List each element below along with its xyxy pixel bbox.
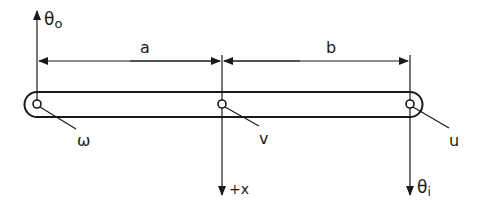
pivot-w-icon	[33, 100, 41, 108]
leader-u	[413, 107, 449, 128]
theta-o-label: θo	[44, 9, 62, 31]
theta-i-label: θi	[417, 177, 431, 199]
v-label: v	[259, 129, 268, 148]
plus-x-label: +x	[229, 181, 249, 197]
pivot-u-icon	[406, 100, 414, 108]
lever-diagram: θo a b +x θi ω v u	[0, 0, 482, 209]
u-label: u	[449, 131, 459, 150]
omega-label: ω	[77, 131, 90, 150]
dimension-b-label: b	[326, 38, 336, 57]
dimension-a-label: a	[140, 38, 150, 57]
pivot-v-icon	[218, 100, 226, 108]
